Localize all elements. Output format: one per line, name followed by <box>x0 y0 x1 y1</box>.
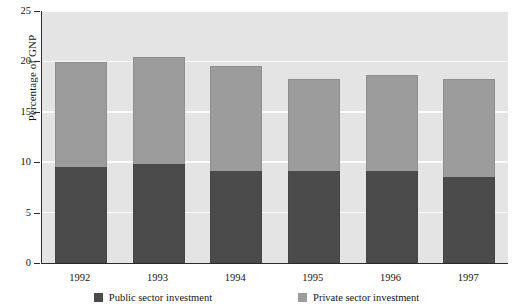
bar-segment-public-sector[interactable] <box>366 171 418 263</box>
y-axis-tick-label: 15 <box>21 107 32 118</box>
bar-segment-private-sector[interactable] <box>210 66 262 171</box>
y-axis-title: Percentage of GNP <box>26 0 38 158</box>
y-axis-tick-mark <box>34 162 40 163</box>
bars-container <box>42 11 508 263</box>
public-sector-swatch-icon <box>94 293 103 302</box>
bar-group[interactable] <box>210 66 262 263</box>
bar-segment-public-sector[interactable] <box>55 167 107 263</box>
bar-group[interactable] <box>133 57 185 263</box>
x-axis-tick-label: 1993 <box>128 272 188 283</box>
bar-segment-private-sector[interactable] <box>55 62 107 167</box>
y-axis-tick-mark <box>34 213 40 214</box>
y-axis-tick-mark <box>34 61 40 62</box>
x-axis-tick-label: 1996 <box>361 272 421 283</box>
private-sector-swatch-icon <box>298 293 307 302</box>
bar-segment-public-sector[interactable] <box>210 171 262 263</box>
bar-group[interactable] <box>55 62 107 263</box>
bar-group[interactable] <box>443 79 495 263</box>
y-axis-tick-label: 20 <box>21 56 32 67</box>
stacked-bar-chart: Percentage of GNP 0510152025 19921993199… <box>0 0 513 308</box>
y-axis-tick-mark <box>34 112 40 113</box>
legend-label: Private sector investment <box>313 292 419 303</box>
bar-segment-public-sector[interactable] <box>288 171 340 263</box>
bar-segment-private-sector[interactable] <box>366 75 418 172</box>
legend-item[interactable]: Private sector investment <box>298 292 419 303</box>
x-axis-tick-label: 1995 <box>283 272 343 283</box>
bar-group[interactable] <box>288 79 340 263</box>
x-axis-tick-label: 1997 <box>438 272 498 283</box>
legend-label: Public sector investment <box>109 292 212 303</box>
bar-segment-private-sector[interactable] <box>443 79 495 178</box>
y-axis-tick-label: 5 <box>26 208 31 219</box>
y-axis-tick-label: 10 <box>21 157 32 168</box>
legend-item[interactable]: Public sector investment <box>94 292 212 303</box>
bar-segment-public-sector[interactable] <box>133 164 185 263</box>
plot-area: 0510152025 <box>41 11 508 264</box>
x-axis-tick-label: 1992 <box>50 272 110 283</box>
x-axis-tick-label: 1994 <box>205 272 265 283</box>
y-axis-tick-label: 25 <box>21 6 32 17</box>
bar-segment-public-sector[interactable] <box>443 177 495 263</box>
chart-legend: Public sector investmentPrivate sector i… <box>0 289 513 305</box>
bar-group[interactable] <box>366 75 418 263</box>
y-axis-tick-mark <box>34 263 40 264</box>
y-axis-tick-label: 0 <box>26 258 31 269</box>
bar-segment-private-sector[interactable] <box>133 57 185 164</box>
y-axis-tick-mark <box>34 11 40 12</box>
bar-segment-private-sector[interactable] <box>288 79 340 172</box>
